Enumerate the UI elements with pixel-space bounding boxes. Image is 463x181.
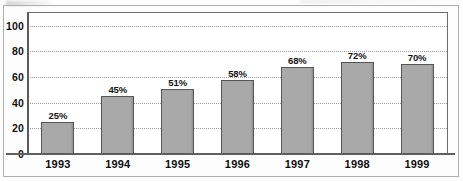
bar-group: 70% <box>401 13 434 154</box>
bar-value-label: 58% <box>228 68 247 79</box>
scan-artifact-secondary <box>300 0 450 3</box>
y-tick-label: 100 <box>6 20 24 32</box>
x-axis-tick-labels: 1993199419951996199719981999 <box>28 158 447 176</box>
x-tick-label: 1998 <box>345 158 370 170</box>
bar <box>341 62 374 154</box>
y-tick-label: 80 <box>12 45 24 57</box>
x-tick-label: 1999 <box>404 158 429 170</box>
x-tick-label: 1995 <box>165 158 190 170</box>
bar-group: 68% <box>281 13 314 154</box>
bar-group: 58% <box>221 13 254 154</box>
x-tick-label: 1996 <box>225 158 250 170</box>
y-tick-label: 20 <box>12 122 24 134</box>
x-axis-line <box>6 153 455 155</box>
bar-value-label: 51% <box>168 77 187 88</box>
bar-chart-screenshot: 020406080100 25%45%51%58%68%72%70% 19931… <box>0 0 463 181</box>
bar-series: 25%45%51%58%68%72%70% <box>28 13 447 154</box>
bar-group: 51% <box>161 13 194 154</box>
bar <box>401 64 434 154</box>
y-axis-tick-labels: 020406080100 <box>0 12 24 154</box>
bar-value-label: 25% <box>49 110 68 121</box>
bar <box>281 67 314 154</box>
bar <box>41 122 74 154</box>
bar-value-label: 68% <box>288 55 307 66</box>
y-tick-label: 60 <box>12 71 24 83</box>
bar-value-label: 72% <box>348 50 367 61</box>
bar-value-label: 70% <box>408 52 427 63</box>
bar <box>101 96 134 154</box>
y-tick-label: 40 <box>12 97 24 109</box>
bar-group: 45% <box>101 13 134 154</box>
bar-group: 72% <box>341 13 374 154</box>
bar <box>161 89 194 154</box>
bar-group: 25% <box>41 13 74 154</box>
x-tick-label: 1997 <box>285 158 310 170</box>
x-tick-label: 1993 <box>45 158 70 170</box>
bar <box>221 80 254 154</box>
bar-value-label: 45% <box>108 84 127 95</box>
x-tick-label: 1994 <box>105 158 130 170</box>
